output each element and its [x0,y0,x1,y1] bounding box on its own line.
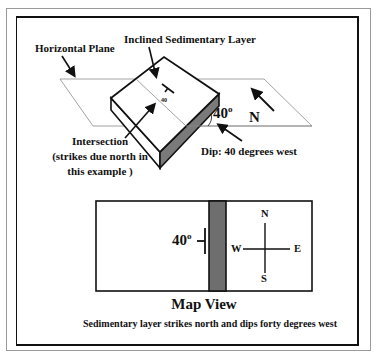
map-dip-label: 40o [172,231,192,249]
map-view-box [96,201,312,291]
map-dip-degree: o [187,231,192,241]
label-horizontal-plane: Horizontal Plane [35,42,115,54]
compass-south: S [261,273,267,284]
intersection-line3: this example ) [40,164,160,179]
arrow-dip [219,125,242,141]
intersection-line1: Intersection [40,134,160,149]
map-view-title: Map View [96,296,312,313]
label-inclined-layer: Inclined Sedimentary Layer [124,33,256,45]
strike-dip-value: 40 [161,97,167,103]
map-layer-band [209,201,226,291]
north-arrow [253,90,274,111]
arrow-horizontal-plane [62,56,74,75]
dip-angle-label: 40o [213,104,233,122]
intersection-line2: (strikes due north in [40,149,160,164]
north-label: N [249,109,260,126]
dip-angle-value: 40 [213,105,228,121]
compass-east: E [294,243,301,254]
label-dip: Dip: 40 degrees west [201,145,297,157]
compass-west: W [231,243,242,254]
dip-angle-degree: o [228,104,233,114]
map-view-caption: Sedimentary layer strikes north and dips… [70,318,350,329]
compass-north: N [261,208,269,219]
map-dip-value: 40 [172,232,187,248]
label-intersection: Intersection (strikes due north in this … [40,134,160,179]
